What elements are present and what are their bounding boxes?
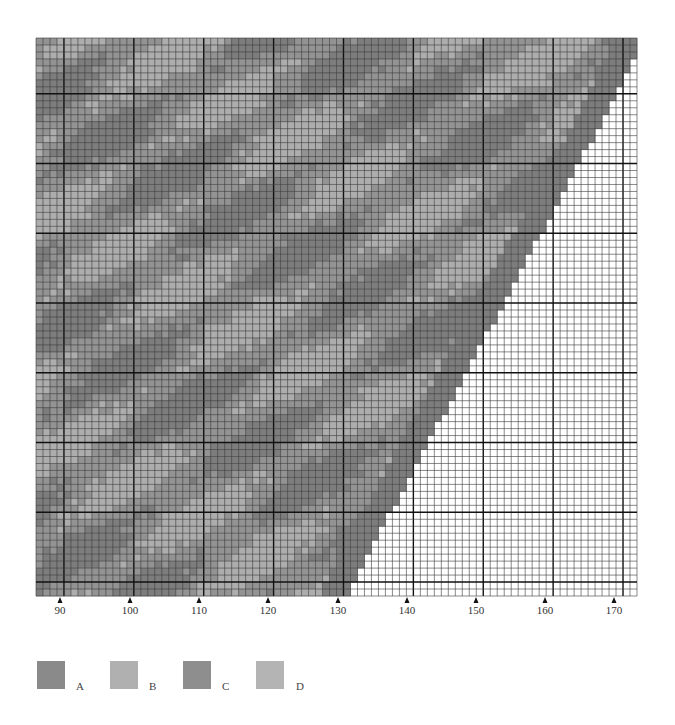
tick-marker-icon <box>612 597 617 603</box>
tick-marker-icon <box>474 597 479 603</box>
x-tick-label: 150 <box>468 604 485 616</box>
grid-lines <box>36 38 637 596</box>
x-tick-label: 100 <box>122 604 139 616</box>
tick-marker-icon <box>197 597 202 603</box>
x-axis-ticks <box>58 597 617 603</box>
tick-marker-icon <box>128 597 133 603</box>
legend-swatch-a <box>37 661 65 689</box>
x-tick-label: 110 <box>191 604 207 616</box>
x-tick-label: 170 <box>606 604 623 616</box>
x-tick-label: 120 <box>260 604 277 616</box>
tick-marker-icon <box>543 597 548 603</box>
tick-marker-icon <box>266 597 271 603</box>
legend-label-a: A <box>76 680 84 692</box>
legend-swatch-c <box>183 661 211 689</box>
legend-label-b: B <box>149 680 156 692</box>
tick-marker-icon <box>58 597 63 603</box>
x-tick-label: 160 <box>537 604 554 616</box>
x-tick-label: 90 <box>55 604 66 616</box>
x-tick-label: 140 <box>399 604 416 616</box>
tick-marker-icon <box>405 597 410 603</box>
tick-marker-icon <box>336 597 341 603</box>
pattern-grid-chart <box>0 0 675 725</box>
legend-swatch-d <box>256 661 284 689</box>
legend-swatch-b <box>110 661 138 689</box>
x-tick-label: 130 <box>330 604 347 616</box>
legend-label-c: C <box>222 680 229 692</box>
legend-label-d: D <box>296 680 304 692</box>
